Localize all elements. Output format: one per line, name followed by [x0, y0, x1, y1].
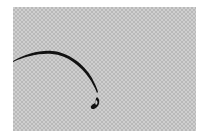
- brush-stroke-graphic: [0, 0, 205, 140]
- arc-stroke: [13, 51, 98, 93]
- stroke-end-hook: [91, 97, 99, 109]
